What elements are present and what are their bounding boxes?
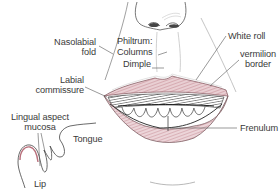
label-vermilion-border: vermilion border <box>236 49 279 69</box>
label-tongue: Tongue <box>73 134 103 144</box>
lip-illustration <box>0 0 279 194</box>
lip-cross-section <box>18 123 96 188</box>
label-columns: Columns <box>117 47 153 57</box>
upper-teeth <box>108 94 224 108</box>
lower-teeth <box>122 107 205 117</box>
label-dimple: Dimple <box>123 59 151 69</box>
lip-anatomy-diagram: Nasolabial fold Philtrum: Columns Dimple… <box>0 0 279 194</box>
nose <box>135 2 186 30</box>
label-lingual-aspect-mucosa: Lingual aspect mucosa <box>8 112 72 132</box>
label-philtrum: Philtrum: <box>117 36 152 46</box>
upper-lip <box>104 74 228 96</box>
label-lip: Lip <box>34 179 46 189</box>
label-nasolabial-fold: Nasolabial fold <box>24 37 96 57</box>
label-frenulum: Frenulum <box>240 123 278 133</box>
label-labial-commissure: Labial commissure <box>26 75 84 95</box>
label-white-roll: White roll <box>228 31 265 41</box>
